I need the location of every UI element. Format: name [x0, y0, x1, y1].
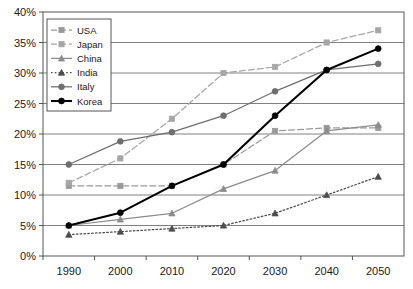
y-axis-tick-label: 20% — [14, 128, 36, 140]
data-point-circle — [169, 129, 175, 135]
data-point-circle — [59, 84, 65, 90]
y-axis-tick-label: 25% — [14, 98, 36, 110]
data-point-circle — [169, 183, 175, 189]
data-point-square — [324, 40, 329, 45]
data-point-square — [66, 180, 71, 185]
x-axis-tick-label: 2010 — [160, 265, 184, 277]
data-point-circle — [66, 162, 72, 168]
data-point-square — [118, 156, 123, 161]
x-axis-tick-label: 2000 — [108, 265, 132, 277]
data-point-circle — [375, 46, 381, 52]
data-point-circle — [117, 210, 123, 216]
x-axis-tick-label: 2030 — [263, 265, 287, 277]
x-axis-tick-label: 2020 — [211, 265, 235, 277]
x-axis-tick-label: 2040 — [314, 265, 338, 277]
y-axis-tick-label: 10% — [14, 189, 36, 201]
y-axis-tick-label: 5% — [20, 220, 36, 232]
y-axis-tick-label: 30% — [14, 67, 36, 79]
y-axis-tick-label: 35% — [14, 37, 36, 49]
legend-label: Korea — [77, 96, 103, 107]
data-point-square — [59, 42, 64, 47]
data-point-square — [376, 28, 381, 33]
legend-label: India — [77, 67, 98, 78]
legend-label: USA — [77, 25, 97, 36]
data-point-square — [169, 116, 174, 121]
data-point-circle — [324, 67, 330, 73]
data-point-square — [59, 27, 64, 32]
legend-label: Japan — [77, 39, 103, 50]
legend-label: China — [77, 53, 103, 64]
data-point-circle — [272, 113, 278, 119]
y-axis-tick-label: 0% — [20, 250, 36, 262]
line-chart: 0%5%10%15%20%25%30%35%40%199020002010202… — [0, 0, 413, 289]
data-point-square — [272, 128, 277, 133]
y-axis-tick-label: 40% — [14, 6, 36, 18]
chart-legend: USAJapanChinaIndiaItalyKorea — [47, 19, 111, 111]
legend-label: Italy — [77, 81, 95, 92]
y-axis-tick-label: 15% — [14, 159, 36, 171]
x-axis-tick-label: 1990 — [57, 265, 81, 277]
data-point-circle — [221, 113, 227, 119]
data-point-square — [118, 183, 123, 188]
x-axis-tick-label: 2050 — [366, 265, 390, 277]
data-point-circle — [59, 98, 65, 104]
chart-canvas: 0%5%10%15%20%25%30%35%40%199020002010202… — [0, 0, 413, 289]
data-point-circle — [66, 223, 72, 229]
data-point-square — [272, 64, 277, 69]
data-point-circle — [117, 138, 123, 144]
data-point-circle — [272, 88, 278, 94]
data-point-circle — [375, 61, 381, 67]
data-point-circle — [221, 162, 227, 168]
data-point-square — [221, 70, 226, 75]
